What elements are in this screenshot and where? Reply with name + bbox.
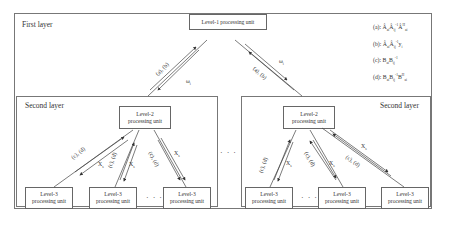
l1-left-down-label: ωi bbox=[186, 78, 191, 86]
right-edge3-down-label: Xs bbox=[361, 143, 367, 151]
l1-right-down-label: ωi bbox=[279, 58, 284, 66]
connection-arrows bbox=[0, 0, 452, 237]
right-edge1-down-label: Xs bbox=[286, 160, 292, 168]
left-edge3-down-label: Xs bbox=[174, 150, 180, 158]
left-edge2-down-label: Xs bbox=[129, 161, 135, 169]
left-edge1-down-label: Xs bbox=[98, 161, 104, 169]
right-edge2-down-label: Xs bbox=[329, 160, 335, 168]
